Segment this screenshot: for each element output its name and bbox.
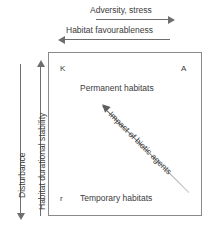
adversity-stress-label: Adversity, stress	[90, 6, 152, 15]
adversity-stress-arrow-head-icon	[168, 16, 175, 24]
habitat-durational-stability-arrow-head-icon	[37, 60, 45, 67]
habitat-favourableness-label: Habitat favourableness	[66, 26, 153, 35]
adversity-stress-arrow-line	[96, 19, 170, 20]
habitat-durational-stability-label: Habitat durational stability	[38, 113, 47, 210]
disturbance-arrow-head-icon	[17, 213, 25, 220]
habitat-favourableness-arrow-line	[65, 39, 170, 40]
habitat-favourableness-arrow-head-icon	[58, 36, 65, 44]
habitat-templet-diagram: Adversity, stress Habitat favourableness…	[0, 0, 214, 233]
permanent-habitats-label: Permanent habitats	[80, 84, 154, 93]
corner-marker-r: r	[60, 195, 63, 203]
corner-marker-a: A	[181, 65, 186, 73]
corner-marker-k: K	[60, 65, 65, 73]
temporary-habitats-label: Temporary habitats	[80, 194, 152, 203]
disturbance-label: Disturbance	[18, 153, 27, 198]
